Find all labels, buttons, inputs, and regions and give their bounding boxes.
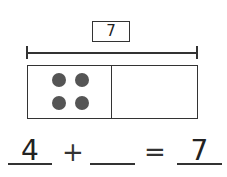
addend2-blank[interactable] — [90, 163, 135, 165]
total-box: 7 — [92, 21, 130, 42]
plus-sign: + — [62, 138, 84, 166]
equals-sign: = — [144, 138, 166, 166]
part-left — [28, 66, 112, 118]
part-whole-bar — [27, 65, 198, 119]
counter-dot — [75, 73, 89, 87]
addend1-blank — [8, 163, 52, 165]
bracket-line — [27, 52, 197, 54]
addend1: 4 — [8, 136, 52, 166]
counter-dot — [52, 96, 66, 110]
sum-blank — [177, 163, 222, 165]
counter-dot — [52, 73, 66, 87]
bracket-left-tick — [26, 46, 28, 59]
counter-dot — [75, 96, 89, 110]
part-right[interactable] — [112, 66, 197, 118]
bracket-right-tick — [196, 46, 198, 59]
sum: 7 — [177, 136, 222, 166]
